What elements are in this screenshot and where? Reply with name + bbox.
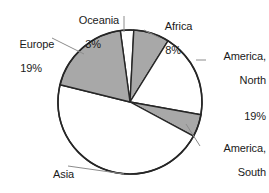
pie-label-america-south-line2: South [200,166,266,178]
pie-label-africa-name: Africa [165,20,193,32]
pie-label-africa-value: 8% [146,44,200,56]
pie-label-africa: Africa 8% [146,8,200,80]
pie-label-asia-value: 46% [32,192,84,193]
pie-label-oceania: Oceania 3% [62,2,124,74]
pie-label-europe-value: 19% [4,62,58,74]
pie-label-asia-name: Asia [53,168,74,180]
pie-label-europe: Europe 19% [4,26,58,98]
pie-label-america-south: America, South 5% [200,130,266,193]
pie-label-america-north-line2: North [202,74,266,86]
pie-label-oceania-value: 3% [62,38,124,50]
pie-label-oceania-name: Oceania [79,14,119,26]
pie-label-america-north-line1: America, [223,50,266,62]
pie-label-america-south-line1: America, [223,142,266,154]
pie-label-america-north-value: 19% [202,110,266,122]
pie-label-europe-name: Europe [19,38,54,50]
pie-chart-figure: Oceania 3% Africa 8% America, North 19% … [0,0,269,193]
pie-label-asia: Asia 46% [32,156,84,193]
